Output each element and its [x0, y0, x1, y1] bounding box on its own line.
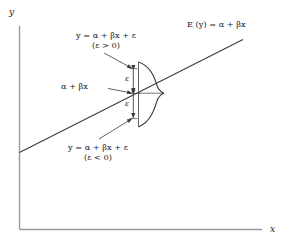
- lower-equation-line1: y = α + βx + ε: [68, 142, 128, 152]
- regression-diagram-figure: y x E (y) = α + βx y = α + βx + ε (ε > 0…: [0, 0, 295, 245]
- conditional-mean-label: α + βx: [61, 82, 88, 92]
- upper-equation-leader: [104, 53, 132, 68]
- mean-label-leader: [108, 89, 132, 94]
- upper-equation-annotation: y = α + βx + ε (ε > 0): [65, 31, 147, 50]
- lower-equation-annotation: y = α + βx + ε (ε < 0): [57, 143, 139, 162]
- upper-equation-line2: (ε > 0): [65, 41, 147, 51]
- y-axis-label: y: [9, 7, 14, 18]
- epsilon-upper-label: ε: [125, 75, 129, 84]
- diagram-canvas: [0, 0, 295, 245]
- upper-equation-line1: y = α + βx + ε: [76, 30, 136, 40]
- lower-equation-line2: (ε < 0): [57, 153, 139, 163]
- regression-line: [20, 40, 244, 153]
- epsilon-lower-label: ε: [125, 100, 129, 109]
- regression-line-label: E (y) = α + βx: [187, 20, 246, 30]
- lower-equation-leader: [99, 119, 132, 139]
- x-axis-label: x: [270, 224, 275, 235]
- normal-density-curve: [139, 62, 165, 127]
